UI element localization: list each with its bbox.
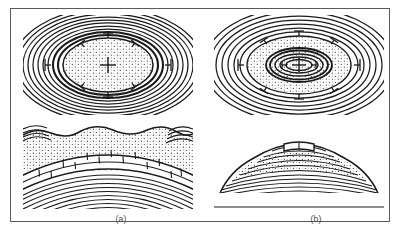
figure-border: (a) (b) (10, 8, 390, 222)
map-view-anticline (23, 15, 193, 115)
panel-caption-b: (b) (296, 214, 336, 224)
map-view-dome (214, 15, 384, 115)
limestone-cap (284, 142, 314, 151)
cross-section-dome (214, 119, 384, 209)
shale-laminated-core (23, 175, 193, 209)
panel-caption-a: (a) (101, 214, 141, 224)
cross-section-anticline (23, 119, 193, 209)
sandstone-band (214, 119, 384, 209)
